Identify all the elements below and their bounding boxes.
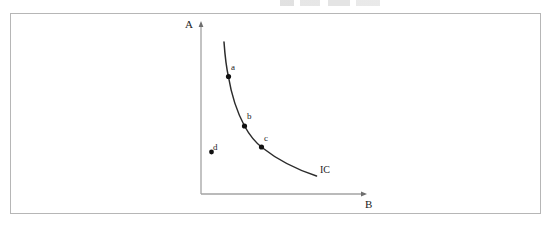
point-label-d: d: [213, 143, 218, 152]
curve-label-ic: IC: [320, 165, 330, 175]
point-label-b: b: [247, 112, 252, 121]
point-label-a: a: [231, 63, 235, 72]
figure-page: A B a b c d IC: [0, 0, 549, 226]
indifference-curve-diagram: [0, 0, 549, 226]
point-label-c: c: [264, 134, 268, 143]
point-marker-c: [259, 144, 264, 149]
y-axis-label: A: [185, 19, 193, 30]
point-marker-a: [226, 74, 231, 79]
x-axis-arrowhead: [361, 192, 367, 197]
curve-group: [224, 42, 317, 176]
y-axis-arrowhead: [199, 21, 204, 27]
x-axis-label: B: [365, 199, 372, 210]
point-marker-b: [242, 123, 247, 128]
indifference-curve-path: [224, 42, 317, 176]
